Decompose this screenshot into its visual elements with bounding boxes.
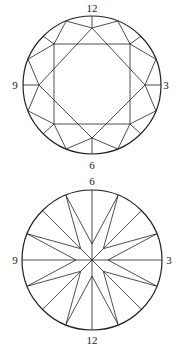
pavilion-facet-diagram: 6 3 12 9 [0,176,181,356]
label-3: 3 [166,254,172,266]
label-12: 12 [87,2,98,14]
crown-facet-diagram: 12 3 6 9 [0,0,181,176]
label-3: 3 [163,79,169,91]
label-12: 12 [87,334,98,346]
label-9: 9 [12,79,18,91]
label-6: 6 [89,176,95,187]
crown-svg: 12 3 6 9 [0,0,181,176]
crown-facet-lines [23,16,161,154]
pavilion-facet-lines [22,190,162,330]
pavilion-svg: 6 3 12 9 [0,176,181,356]
label-9: 9 [12,254,18,266]
label-6: 6 [89,159,95,171]
